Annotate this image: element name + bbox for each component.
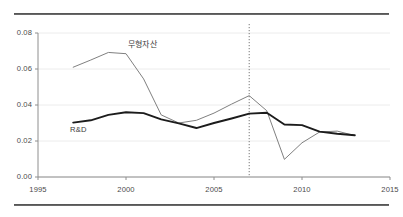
x-tick-label: 2010 xyxy=(285,185,319,194)
y-tick-label: 0.02 xyxy=(6,136,32,145)
tick-marks xyxy=(35,33,390,180)
x-tick-label: 1995 xyxy=(21,185,55,194)
y-tick-label: 0.04 xyxy=(6,100,32,109)
y-tick-label: 0.08 xyxy=(6,28,32,37)
y-tick-label: 0.06 xyxy=(6,64,32,73)
x-tick-label: 2000 xyxy=(109,185,143,194)
x-tick-label: 2015 xyxy=(373,185,403,194)
y-tick-label: 0.00 xyxy=(6,172,32,181)
series-label-intangible: 무형자산 xyxy=(128,38,157,49)
gridlines xyxy=(38,33,390,177)
chart-figure: 0.000.020.040.060.08 1995200020052010201… xyxy=(0,0,403,217)
x-tick-label: 2005 xyxy=(197,185,231,194)
series-label-rnd: R&D xyxy=(70,125,87,134)
series-layer xyxy=(73,52,355,159)
